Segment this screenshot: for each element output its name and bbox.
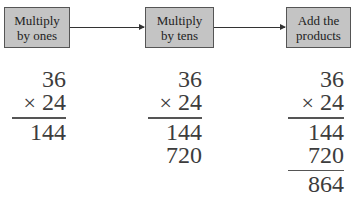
step-label-line2: by ones — [17, 28, 57, 43]
partial-product-ones: 144 — [148, 121, 202, 144]
multiplicand: 36 — [12, 68, 66, 91]
final-product: 864 — [288, 173, 344, 196]
calculation-step-2: 36 × 24 144 720 — [148, 68, 202, 167]
partial-product-ones: 144 — [288, 121, 344, 144]
step-box-multiply-by-tens: Multiply by tens — [145, 7, 214, 48]
partial-product-ones: 144 — [12, 121, 66, 144]
partial-product-tens: 720 — [288, 144, 344, 167]
calculation-step-1: 36 × 24 144 — [12, 68, 66, 144]
times-icon: × — [302, 90, 314, 115]
partial-product-tens: 720 — [148, 144, 202, 167]
arrow-right-icon — [214, 27, 285, 28]
multiplier: 24 — [42, 89, 66, 115]
step-label-line1: Multiply — [14, 13, 60, 28]
step-box-multiply-by-ones: Multiply by ones — [4, 7, 70, 48]
multiplier-row: × 24 — [288, 91, 344, 114]
multiplicand: 36 — [288, 68, 344, 91]
step-label-line1: Multiply — [157, 13, 203, 28]
step-box-add-the-products: Add the products — [286, 7, 351, 48]
step-label-line1: Add the — [298, 13, 340, 28]
multiplier: 24 — [178, 89, 202, 115]
step-label-line2: products — [296, 28, 341, 43]
multiplier: 24 — [320, 89, 344, 115]
multiplier-row: × 24 — [12, 91, 66, 114]
multiplicand: 36 — [148, 68, 202, 91]
arrow-right-icon — [70, 27, 144, 28]
times-icon: × — [160, 90, 172, 115]
multiplier-row: × 24 — [148, 91, 202, 114]
step-label-line2: by tens — [161, 28, 198, 43]
times-icon: × — [24, 90, 36, 115]
calculation-step-3: 36 × 24 144 720 864 — [288, 68, 344, 196]
